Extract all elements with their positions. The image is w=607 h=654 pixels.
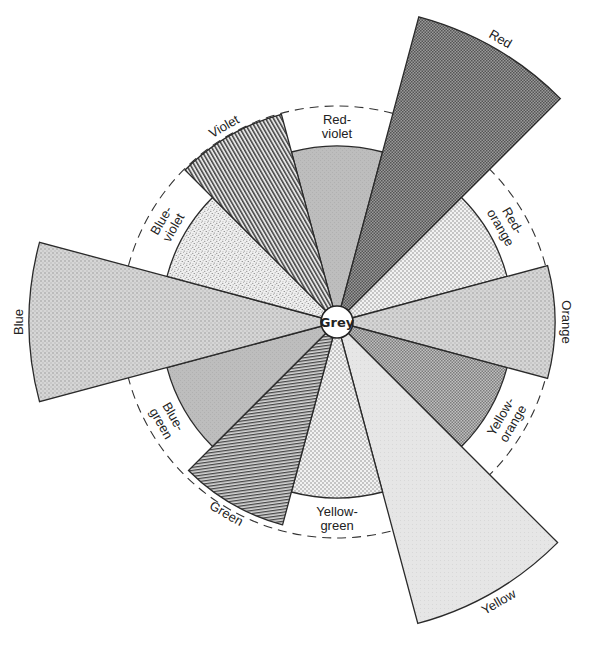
segment-label-line: violet <box>322 126 353 141</box>
label-orange: Orange <box>559 300 574 343</box>
segment-label-line: Red- <box>323 112 351 127</box>
label-yellow-green: Yellow-green <box>316 504 357 533</box>
segment-label-line: Yellow- <box>316 504 357 519</box>
segment-label-line: green <box>320 518 353 533</box>
wedge-group <box>29 17 560 624</box>
segment-label-line: Orange <box>559 300 574 343</box>
color-wheel-diagram: Red-violetRedRed-orangeOrangeYellow-oran… <box>0 0 607 654</box>
segment-label-line: Blue <box>11 309 26 335</box>
center-hub: Grey <box>320 306 355 338</box>
label-red-violet: Red-violet <box>322 112 353 141</box>
center-label-grey: Grey <box>320 315 355 330</box>
label-blue: Blue <box>11 309 26 335</box>
